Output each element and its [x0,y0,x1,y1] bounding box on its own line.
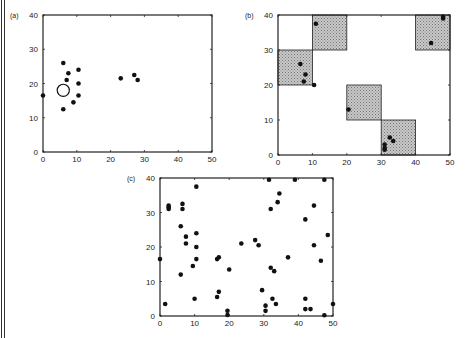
data-point [166,207,171,212]
data-point [194,257,199,262]
data-point [135,78,140,83]
open-circle-marker [57,84,69,96]
data-point [298,62,303,67]
data-point [225,309,230,314]
data-point [194,184,199,189]
data-point [194,245,199,250]
data-point [163,302,168,307]
x-tick-label: 50 [446,158,455,167]
data-point [302,79,307,84]
shaded-quadrat [312,15,346,50]
data-point [275,200,280,205]
x-tick-label: 10 [72,155,81,164]
data-point [178,224,183,229]
panel-b: 01020304050010203040(b) [245,11,455,167]
plot-frame [43,15,212,152]
data-point [303,72,308,77]
data-point [184,241,189,246]
panel-label: (a) [10,12,19,20]
data-point [322,313,327,318]
data-point [132,73,137,78]
x-tick-label: 30 [259,319,268,328]
panel-a: 01020304050010203040(a) [10,11,217,164]
y-tick-label: 40 [29,11,38,20]
data-point [263,309,268,314]
data-point [326,233,331,238]
data-point [225,313,230,318]
data-point [346,107,351,112]
data-point [180,202,185,207]
data-point [239,241,244,246]
data-point [270,296,275,301]
data-point [312,203,317,208]
plot-frame [160,178,333,316]
y-tick-label: 20 [29,80,38,89]
data-point [71,100,76,105]
shaded-quadrat [278,50,312,85]
data-point [268,265,273,270]
data-point [178,272,183,277]
data-point [322,177,327,182]
data-point [303,307,308,312]
data-point [308,307,313,312]
x-tick-label: 50 [208,155,217,164]
data-point [303,217,308,222]
y-tick-label: 0 [151,312,156,321]
x-tick-label: 40 [174,155,183,164]
data-point [215,295,220,300]
data-point [312,83,317,88]
y-tick-label: 10 [146,278,155,287]
data-point [76,68,81,73]
data-point [263,303,268,308]
shaded-quadrat [347,85,381,120]
y-tick-label: 10 [29,114,38,123]
y-tick-label: 0 [269,151,274,160]
data-point [277,191,282,196]
y-tick-label: 30 [146,209,155,218]
data-point [184,234,189,239]
data-point [217,255,222,260]
x-tick-label: 40 [411,158,420,167]
data-point [180,207,185,212]
data-point [303,296,308,301]
data-point [256,243,261,248]
data-point [64,78,69,83]
x-tick-label: 20 [342,158,351,167]
data-point [314,21,319,26]
data-point [331,302,336,307]
data-point [260,288,265,293]
data-point [192,296,197,301]
data-point [388,135,393,140]
data-point [194,231,199,236]
data-point [293,177,298,182]
data-point [391,139,396,144]
data-point [191,264,196,269]
data-point [61,61,66,66]
data-point [382,147,387,152]
data-point [217,290,222,295]
data-point [274,302,279,307]
data-point [76,81,81,86]
x-tick-label: 10 [190,319,199,328]
figure-canvas: 01020304050010203040(a) 0102030405001020… [0,0,467,338]
data-point [312,243,317,248]
x-tick-label: 0 [41,155,46,164]
x-tick-label: 0 [158,319,163,328]
panel-label: (b) [245,12,254,20]
data-point [268,207,273,212]
data-point [158,257,163,262]
x-tick-label: 10 [308,158,317,167]
data-point [429,41,434,46]
panel-c: 01020304050010203040(c) [127,174,338,328]
data-point [76,93,81,98]
x-tick-label: 50 [329,319,338,328]
x-tick-label: 20 [225,319,234,328]
y-tick-label: 20 [264,81,273,90]
data-point [118,76,123,81]
data-point [41,93,46,98]
shaded-quadrat [416,15,450,50]
y-tick-label: 40 [146,174,155,183]
y-tick-label: 20 [146,243,155,252]
x-tick-label: 0 [276,158,281,167]
x-tick-label: 40 [294,319,303,328]
